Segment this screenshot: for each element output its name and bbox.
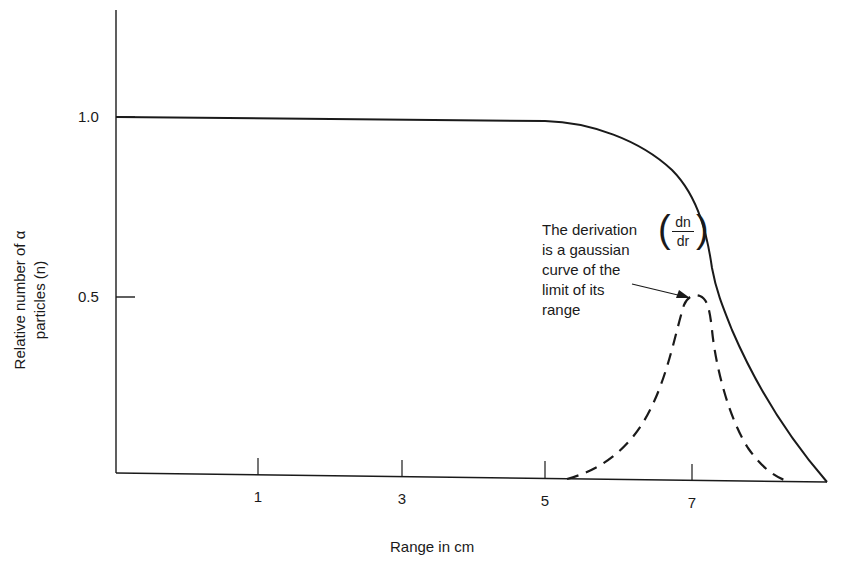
paren-open: (	[658, 210, 671, 248]
annotation-line-1: The derivation	[542, 220, 637, 240]
annotation-text: The derivation is a gaussian curve of th…	[542, 220, 637, 320]
fraction-bar	[672, 231, 694, 232]
annotation-line-4: limit of its	[542, 280, 637, 300]
dashed-curve-derivative	[567, 295, 787, 481]
solid-curve-n	[116, 117, 827, 482]
y-tick-label-0.5: 0.5	[78, 288, 99, 306]
x-tick-label-1: 1	[254, 488, 262, 505]
x-tick-label-5: 5	[541, 492, 549, 509]
chart-canvas	[0, 0, 842, 568]
x-axis-title: Range in cm	[390, 538, 474, 556]
y-tick-label-1.0: 1.0	[78, 108, 99, 126]
y-axis-title-line2: particles (n)	[30, 231, 50, 370]
fraction-denominator: dr	[672, 233, 694, 249]
arrow-head-icon	[676, 290, 690, 298]
x-axis	[116, 473, 827, 482]
annotation-line-3: curve of the	[542, 260, 637, 280]
x-tick-label-3: 3	[398, 490, 406, 507]
annotation-line-5: range	[542, 300, 637, 320]
annotation-arrow	[632, 284, 682, 296]
paren-close: )	[696, 210, 709, 248]
fraction-numerator: dn	[672, 214, 694, 230]
y-axis-title-line1: Relative number of α	[10, 231, 30, 370]
x-tick-label-7: 7	[688, 494, 696, 511]
annotation-line-2: is a gaussian	[542, 240, 637, 260]
